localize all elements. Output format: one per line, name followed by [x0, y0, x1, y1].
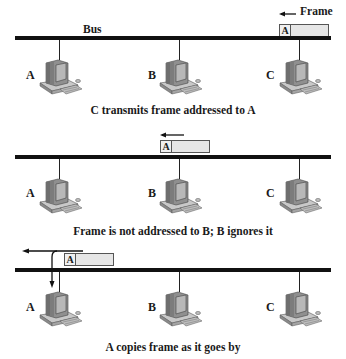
frame-payload — [291, 25, 328, 36]
node-label-a: A — [26, 186, 35, 201]
desktop-computer-icon — [38, 57, 82, 97]
desktop-computer-icon — [158, 57, 202, 97]
frame-address: A — [280, 25, 291, 36]
node-label-c: C — [266, 300, 275, 315]
caption: Frame is not addressed to B; B ignores i… — [0, 225, 346, 237]
bus-line — [15, 268, 331, 272]
node-label-c: C — [266, 68, 275, 83]
node-label-b: B — [148, 68, 156, 83]
desktop-computer-icon — [278, 289, 322, 329]
frame-packet: A — [160, 140, 210, 153]
node-label-b: B — [148, 186, 156, 201]
desktop-computer-icon — [38, 289, 82, 329]
desktop-computer-icon — [158, 176, 202, 216]
frame-packet: A — [64, 253, 114, 266]
desktop-computer-icon — [38, 176, 82, 216]
frame-address: A — [161, 141, 172, 152]
panel-2: A A B C Frame is not addressed to B; B i… — [0, 120, 346, 240]
panel-1: Frame A Bus A B C C transmits frame addr… — [0, 0, 346, 120]
desktop-computer-icon — [278, 57, 322, 97]
node-label-c: C — [266, 186, 275, 201]
bus-line — [15, 36, 331, 40]
frame-payload — [172, 141, 209, 152]
bus-label: Bus — [83, 23, 102, 35]
caption: C transmits frame addressed to A — [0, 104, 346, 116]
node-label-a: A — [26, 68, 35, 83]
panel-3: A A B C A copies frame as it goes by — [0, 240, 346, 359]
desktop-computer-icon — [158, 289, 202, 329]
frame-address: A — [65, 254, 76, 265]
desktop-computer-icon — [278, 176, 322, 216]
node-label-a: A — [26, 300, 35, 315]
node-label-b: B — [148, 300, 156, 315]
bus-line — [15, 155, 331, 159]
caption: A copies frame as it goes by — [0, 341, 346, 353]
frame-payload — [76, 254, 113, 265]
